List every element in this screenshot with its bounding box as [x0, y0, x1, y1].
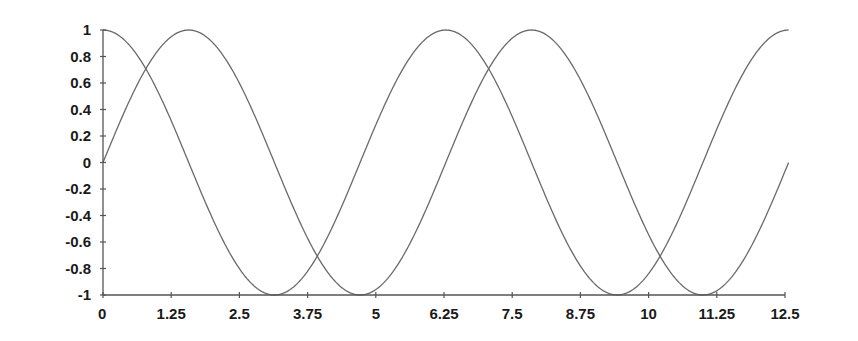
line-chart: 10.80.60.40.20-0.2-0.4-0.6-0.8-1 01.252.…: [0, 0, 858, 341]
y-tick-label: -0.2: [65, 180, 91, 197]
x-ticks: 01.252.53.7556.257.58.751011.2512.5: [98, 292, 800, 322]
x-tick-label: 11.25: [698, 305, 735, 322]
y-tick-label: -0.6: [65, 233, 91, 250]
x-tick-label: 8.75: [566, 305, 595, 322]
y-tick-label: 0: [83, 154, 91, 171]
x-tick-label: 5: [372, 305, 380, 322]
y-ticks: 10.80.60.40.20-0.2-0.4-0.6-0.8-1: [65, 21, 106, 303]
x-tick-label: 0: [98, 305, 106, 322]
x-tick-label: 10: [640, 305, 657, 322]
y-tick-label: -0.4: [65, 207, 92, 224]
y-tick-label: 0.4: [70, 101, 92, 118]
x-tick-label: 7.5: [502, 305, 523, 322]
x-tick-label: 6.25: [429, 305, 458, 322]
x-tick-label: 2.5: [229, 305, 250, 322]
x-tick-label: 3.75: [293, 305, 322, 322]
sin-curve: [103, 30, 789, 295]
y-tick-label: -1: [78, 286, 91, 303]
x-axis: 01.252.53.7556.257.58.751011.2512.5: [98, 292, 800, 322]
y-tick-label: 0.8: [70, 48, 91, 65]
y-tick-label: 0.2: [70, 127, 91, 144]
plot-area: [103, 30, 789, 295]
y-axis: 10.80.60.40.20-0.2-0.4-0.6-0.8-1: [65, 21, 106, 303]
y-tick-label: 1: [83, 21, 91, 38]
y-tick-label: 0.6: [70, 74, 91, 91]
y-tick-label: -0.8: [65, 260, 91, 277]
x-tick-label: 1.25: [157, 305, 186, 322]
x-tick-label: 12.5: [770, 305, 799, 322]
